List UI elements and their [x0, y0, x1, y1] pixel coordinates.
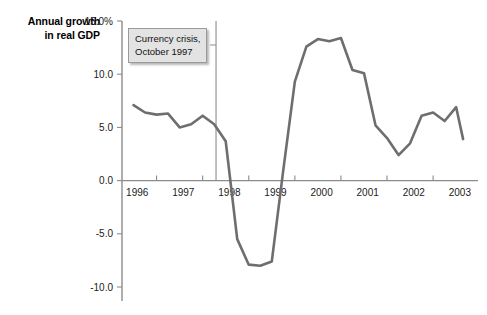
- y-axis-ticks: 15.0%10.05.00.0-5.0-10.0: [85, 16, 122, 293]
- annotation-line-2: October 1997: [135, 46, 200, 59]
- chart-plot-area: 15.0%10.05.00.0-5.0-10.0 199619971998199…: [0, 0, 487, 315]
- gdp-growth-line: [134, 38, 464, 266]
- y-tick-label: 0.0: [99, 175, 113, 186]
- y-tick-label: -10.0: [90, 282, 113, 293]
- annotation-line-1: Currency crisis,: [135, 33, 200, 46]
- x-tick-label: 1999: [264, 187, 287, 198]
- y-tick-label: 15.0%: [85, 16, 113, 27]
- x-tick-label: 2000: [310, 187, 333, 198]
- y-tick-label: -5.0: [96, 228, 114, 239]
- currency-crisis-annotation: Currency crisis, October 1997: [128, 28, 207, 63]
- x-tick-label: 2001: [357, 187, 380, 198]
- x-axis-ticks: 19961997199819992000200120022003: [126, 176, 471, 198]
- x-tick-label: 1998: [218, 187, 241, 198]
- x-tick-label: 1997: [172, 187, 195, 198]
- x-tick-label: 1996: [126, 187, 149, 198]
- x-tick-label: 2003: [449, 187, 472, 198]
- x-tick-label: 2002: [403, 187, 426, 198]
- y-tick-label: 5.0: [99, 122, 113, 133]
- y-tick-label: 10.0: [94, 69, 114, 80]
- chart-container: Annual growth in real GDP 15.0%10.05.00.…: [0, 0, 487, 315]
